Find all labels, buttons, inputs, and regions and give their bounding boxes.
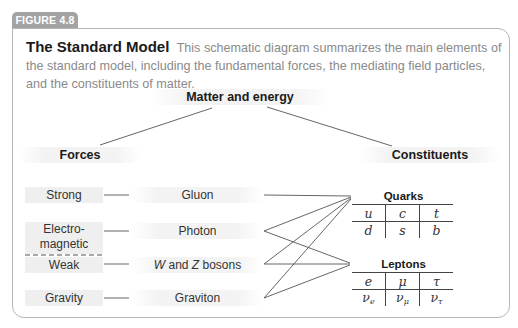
quark-s: s	[386, 222, 420, 239]
force-strong: Strong	[25, 187, 103, 203]
quark-u: u	[352, 205, 386, 222]
nu-symbol: ν	[396, 290, 404, 305]
quarks-header: Quarks	[352, 189, 455, 203]
nu-symbol: ν	[362, 290, 370, 305]
nu-subscript: τ	[438, 297, 442, 306]
lepton-electron-neutrino: νe	[352, 290, 386, 307]
mediator-gluon: Gluon	[132, 187, 263, 203]
quark-b: b	[420, 222, 454, 239]
leptons-header: Leptons	[352, 257, 455, 271]
mediator-w: W	[154, 258, 165, 272]
quarks-table: u c t d s b	[352, 204, 453, 238]
lepton-muon: μ	[386, 273, 420, 290]
leptons-table: e μ τ νe νμ ντ	[352, 272, 453, 306]
nu-subscript: μ	[404, 297, 409, 306]
mediator-and: and	[165, 258, 192, 272]
nu-subscript: e	[370, 297, 375, 306]
force-gravity: Gravity	[25, 290, 103, 306]
root-node: Matter and energy	[150, 89, 330, 105]
lepton-electron: e	[352, 273, 386, 290]
quark-t: t	[420, 205, 454, 222]
force-electromagnetic-line2: magnetic	[25, 237, 103, 252]
quark-d: d	[352, 222, 386, 239]
lepton-tau: τ	[420, 273, 454, 290]
force-electromagnetic: Electro- magnetic	[25, 222, 103, 254]
lepton-tau-neutrino: ντ	[420, 290, 454, 307]
mediator-photon: Photon	[132, 223, 263, 239]
force-weak: Weak	[25, 257, 103, 273]
forces-header: Forces	[20, 147, 140, 163]
quark-c: c	[386, 205, 420, 222]
constituents-header: Constituents	[360, 147, 500, 163]
mediator-graviton: Graviton	[132, 290, 263, 306]
mediator-w-z-bosons: W and Z bosons	[132, 257, 263, 273]
nu-symbol: ν	[430, 290, 438, 305]
lepton-muon-neutrino: νμ	[386, 290, 420, 307]
mediator-bosons: bosons	[199, 258, 241, 272]
force-electromagnetic-line1: Electro-	[25, 222, 103, 237]
